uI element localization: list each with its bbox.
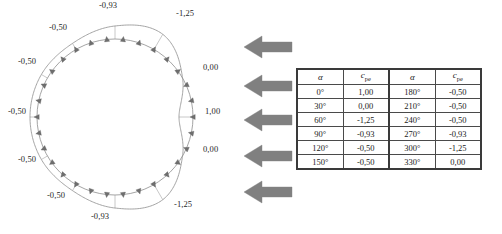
wind-direction-arrow (244, 36, 292, 58)
cell-cpe-left: -0,50 (343, 141, 389, 155)
polar-group (30, 25, 195, 209)
wind-direction-arrow (244, 145, 292, 167)
pressure-arrow (61, 172, 66, 178)
wind-arrows-svg (240, 0, 300, 234)
cell-alpha-left: 90° (297, 127, 343, 141)
cp-value-label: 1,00 (205, 107, 220, 116)
pressure-arrow (41, 145, 47, 150)
pressure-arrow (136, 188, 141, 194)
wind-direction-arrow (244, 181, 292, 203)
polar-diagram-svg (0, 0, 240, 234)
radial-tick (41, 156, 47, 160)
cell-alpha-left: 150° (297, 155, 343, 170)
cell-alpha-right: 300° (389, 141, 435, 155)
pressure-arrow (164, 172, 169, 178)
cp-value-label: -1,25 (174, 200, 192, 209)
arrow-group (244, 36, 292, 203)
header-alpha-right: α (389, 69, 435, 85)
table-row: 120°-0,50300°-1,25 (297, 141, 481, 155)
cell-cpe-right: 0,00 (435, 155, 481, 170)
pressure-arrow (184, 147, 190, 152)
table-row: 0°1,00180°-0,50 (297, 85, 481, 99)
cell-alpha-left: 30° (297, 99, 343, 113)
header-alpha-left: α (297, 69, 343, 85)
cell-alpha-right: 240° (389, 113, 435, 127)
pressure-arrow (89, 188, 94, 194)
pressure-arrow (41, 84, 47, 89)
cell-alpha-right: 270° (389, 127, 435, 141)
wind-direction-arrow (244, 75, 292, 97)
table-row: 90°-0,93270°-0,93 (297, 127, 481, 141)
cpe-values-table: α cpe α cpe 0°1,00180°-0,5030°0,00210°-0… (296, 68, 482, 170)
table-row: 60°-1,25240°-0,50 (297, 113, 481, 127)
cp-value-label: -0,50 (18, 155, 36, 164)
cp-value-label: 0,00 (203, 145, 218, 154)
table-body: 0°1,00180°-0,5030°0,00210°-0,5060°-1,252… (297, 85, 481, 170)
pressure-coefficient-curve (30, 25, 183, 209)
cp-value-label: 0,00 (203, 63, 218, 72)
header-cpe-right: cpe (435, 69, 481, 85)
cell-cpe-right: -0,50 (435, 113, 481, 127)
table-row: 30°0,00210°-0,50 (297, 99, 481, 113)
cylinder-outline (37, 39, 193, 195)
cell-cpe-right: -0,93 (435, 127, 481, 141)
figure-canvas: 1,000,00-1,25-0,93-0,50-0,50-0,50-0,50-0… (0, 0, 502, 234)
cp-value-label: -0,50 (49, 23, 67, 32)
header-cpe-left: cpe (343, 69, 389, 85)
cell-alpha-right: 330° (389, 155, 435, 170)
cp-value-label: -0,50 (8, 107, 26, 116)
pressure-arrow (136, 40, 141, 46)
cp-value-label: -0,93 (91, 212, 109, 221)
cell-alpha-left: 60° (297, 113, 343, 127)
cell-cpe-left: -1,25 (343, 113, 389, 127)
cell-cpe-right: -0,50 (435, 99, 481, 113)
cell-cpe-left: -0,50 (343, 155, 389, 170)
pressure-arrow (89, 40, 94, 46)
cell-alpha-left: 0° (297, 85, 343, 99)
table-header: α cpe α cpe (297, 69, 481, 85)
cp-value-label: -0,50 (47, 191, 65, 200)
cell-cpe-left: -0,93 (343, 127, 389, 141)
table-row: 150°-0,50330°0,00 (297, 155, 481, 170)
table-header-row: α cpe α cpe (297, 69, 481, 85)
cell-cpe-left: 0,00 (343, 99, 389, 113)
wind-arrow-group (240, 0, 300, 234)
pressure-arrow (61, 57, 66, 63)
pressure-distribution-diagram: 1,000,00-1,25-0,93-0,50-0,50-0,50-0,50-0… (0, 0, 240, 234)
cpe-table-container: α cpe α cpe 0°1,00180°-0,5030°0,00210°-0… (296, 68, 482, 170)
cell-cpe-right: -0,50 (435, 85, 481, 99)
wind-direction-arrow (244, 109, 292, 131)
pressure-arrow (184, 82, 190, 87)
pressure-arrow (164, 57, 169, 63)
cell-alpha-right: 180° (389, 85, 435, 99)
cp-value-label: -0,93 (99, 1, 117, 10)
cell-alpha-left: 120° (297, 141, 343, 155)
cell-alpha-right: 210° (389, 99, 435, 113)
cell-cpe-left: 1,00 (343, 85, 389, 99)
cp-value-label: -0,50 (18, 57, 36, 66)
cp-value-label: -1,25 (176, 9, 194, 18)
radial-tick (41, 75, 47, 79)
cell-cpe-right: -1,25 (435, 141, 481, 155)
